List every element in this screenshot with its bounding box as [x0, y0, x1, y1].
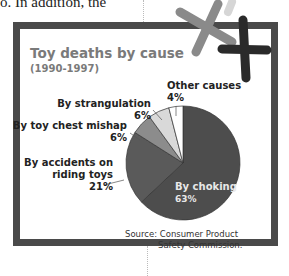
label-choking: By choking 63% — [175, 181, 237, 205]
label-toy-chest-value: 6% — [13, 132, 127, 144]
label-toy-chest: By toy chest mishap 6% — [13, 120, 127, 144]
label-other-causes-name: Other causes — [167, 80, 241, 92]
label-riding-toys: By accidents on riding toys 21% — [24, 157, 113, 193]
label-riding-toys-line1: By accidents on — [24, 157, 113, 169]
label-choking-value: 63% — [175, 193, 237, 205]
label-toy-chest-name: By toy chest mishap — [13, 120, 127, 132]
source-line-2: Safety Commission. — [125, 240, 242, 251]
label-strangulation-name: By strangulation — [57, 98, 151, 110]
label-strangulation: By strangulation 6% — [57, 98, 151, 122]
source-line-1: Source: Consumer Product — [125, 229, 242, 240]
label-riding-toys-value: 21% — [24, 181, 113, 193]
label-choking-name: By choking — [175, 181, 237, 193]
chart-source: Source: Consumer Product Safety Commissi… — [125, 229, 242, 251]
label-riding-toys-line2: riding toys — [24, 169, 113, 181]
label-other-causes-value: 4% — [167, 92, 241, 104]
label-other-causes: Other causes 4% — [167, 80, 241, 104]
